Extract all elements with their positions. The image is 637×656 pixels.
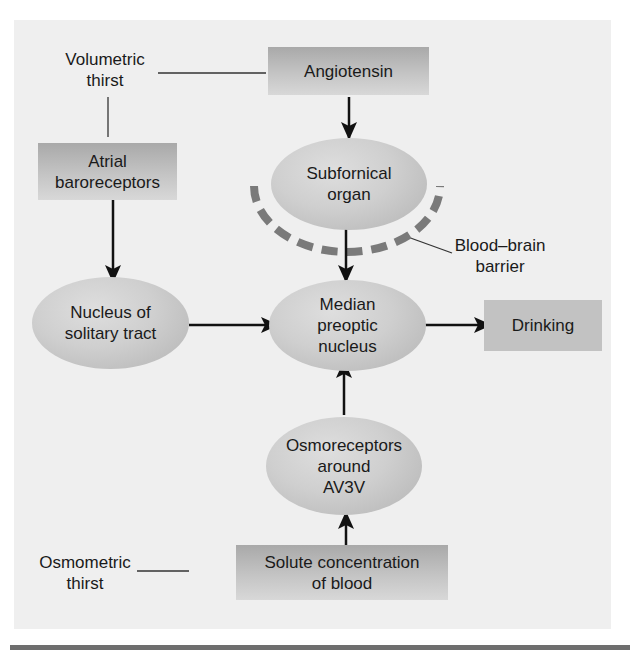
angiotensin-box: Angiotensin xyxy=(268,47,429,95)
subfornical-organ-oval: Subfornical organ xyxy=(271,138,427,230)
atrial-baroreceptors-text: Atrial baroreceptors xyxy=(55,151,160,193)
nucleus-solitary-tract-oval: Nucleus of solitary tract xyxy=(32,277,189,369)
bottom-rule xyxy=(10,645,630,650)
volumetric-thirst-label: Volumetric thirst xyxy=(50,49,160,91)
osmoreceptors-text: Osmoreceptors around AV3V xyxy=(286,435,402,498)
median-preoptic-nucleus-text: Median preoptic nucleus xyxy=(317,294,377,357)
angiotensin-text: Angiotensin xyxy=(304,61,393,82)
blood-brain-barrier-label: Blood–brain barrier xyxy=(445,235,555,277)
atrial-baroreceptors-box: Atrial baroreceptors xyxy=(38,143,177,200)
median-preoptic-nucleus-oval: Median preoptic nucleus xyxy=(269,280,426,371)
nucleus-solitary-tract-text: Nucleus of solitary tract xyxy=(65,302,157,344)
solute-concentration-box: Solute concentration of blood xyxy=(236,545,448,600)
drinking-text: Drinking xyxy=(512,315,574,336)
drinking-box: Drinking xyxy=(484,300,602,351)
osmometric-thirst-label: Osmometric thirst xyxy=(30,552,140,594)
solute-concentration-text: Solute concentration of blood xyxy=(265,552,420,594)
osmoreceptors-oval: Osmoreceptors around AV3V xyxy=(266,417,422,515)
subfornical-organ-text: Subfornical organ xyxy=(306,163,391,205)
